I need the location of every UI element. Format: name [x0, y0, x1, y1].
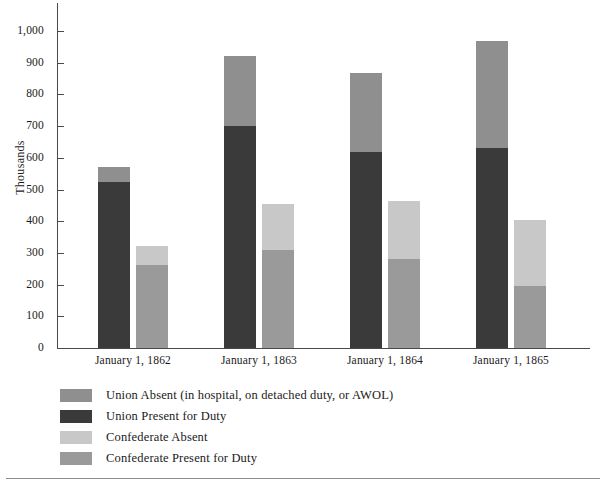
legend-label: Union Present for Duty [106, 408, 226, 424]
legend-label: Union Absent (in hospital, on detached d… [106, 387, 393, 403]
bar-segment [388, 201, 420, 259]
legend-item: Union Absent (in hospital, on detached d… [60, 386, 580, 407]
bar-segment [476, 148, 508, 348]
x-axis-tick-label: January 1, 1865 [451, 354, 571, 367]
y-axis-tick [57, 31, 64, 32]
legend-swatch [60, 410, 92, 423]
bar-union-3 [476, 41, 508, 348]
bar-segment [136, 246, 168, 265]
y-axis-tick-label: 100 [0, 310, 44, 322]
legend-item: Confederate Absent [60, 428, 580, 449]
bar-confederate-2 [388, 201, 420, 348]
y-axis-tick-label: 700 [0, 120, 44, 132]
legend-label: Confederate Absent [106, 429, 208, 445]
bar-segment [98, 167, 130, 181]
bar-segment [98, 182, 130, 348]
y-axis-tick [57, 126, 64, 127]
y-axis-tick [57, 158, 64, 159]
bottom-divider [6, 478, 600, 479]
legend-item: Confederate Present for Duty [60, 449, 580, 470]
bar-segment [262, 250, 294, 348]
bar-segment [350, 73, 382, 152]
bar-segment [224, 126, 256, 348]
x-axis-tick-label: January 1, 1863 [199, 354, 319, 367]
y-axis-tick [57, 348, 64, 349]
legend-swatch [60, 431, 92, 444]
legend-swatch [60, 452, 92, 465]
legend-swatch [60, 389, 92, 402]
y-axis-tick-label: 500 [0, 184, 44, 196]
bar-segment [476, 41, 508, 148]
bar-segment [514, 286, 546, 348]
bar-segment [224, 56, 256, 126]
y-axis-tick-label: 0 [0, 342, 44, 354]
bar-segment [514, 220, 546, 287]
bar-union-0 [98, 167, 130, 348]
y-axis-spine [57, 3, 58, 348]
y-axis-tick [57, 253, 64, 254]
legend-label: Confederate Present for Duty [106, 450, 257, 466]
bar-segment [388, 259, 420, 348]
bar-segment [350, 152, 382, 348]
y-axis-tick-label: 200 [0, 279, 44, 291]
y-axis-tick [57, 285, 64, 286]
bar-confederate-3 [514, 220, 546, 348]
y-axis-tick [57, 94, 64, 95]
y-axis-tick-label: 800 [0, 88, 44, 100]
x-axis-spine [57, 348, 590, 349]
bar-union-1 [224, 56, 256, 348]
y-axis-tick [57, 190, 64, 191]
y-axis-tick [57, 316, 64, 317]
chart-legend: Union Absent (in hospital, on detached d… [60, 386, 580, 470]
bar-confederate-1 [262, 204, 294, 348]
y-axis-tick [57, 221, 64, 222]
legend-item: Union Present for Duty [60, 407, 580, 428]
bar-segment [136, 265, 168, 348]
chart-figure: Thousands 01002003004005006007008009001,… [0, 0, 611, 488]
y-axis-tick-label: 900 [0, 57, 44, 69]
bar-segment [262, 204, 294, 249]
y-axis-tick-label: 600 [0, 152, 44, 164]
y-axis-tick [57, 63, 64, 64]
y-axis-tick-label: 400 [0, 215, 44, 227]
y-axis-tick-label: 300 [0, 247, 44, 259]
bar-union-2 [350, 73, 382, 348]
y-axis-tick-label: 1,000 [0, 25, 44, 37]
x-axis-tick-label: January 1, 1862 [73, 354, 193, 367]
bar-confederate-0 [136, 246, 168, 348]
x-axis-tick-label: January 1, 1864 [325, 354, 445, 367]
